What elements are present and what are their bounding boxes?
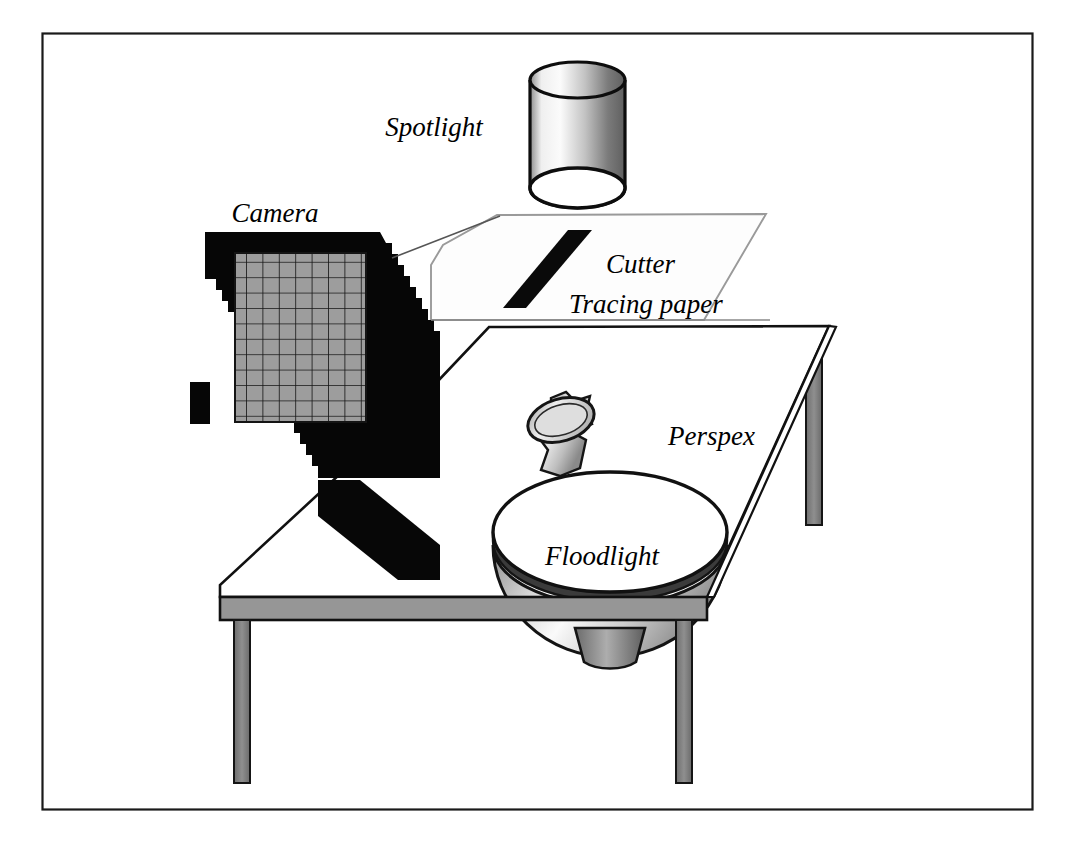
floodlight-bottom-nub [575, 628, 645, 669]
floodlight-top-face [493, 472, 727, 592]
spotlight-group [530, 62, 625, 208]
figure-root: Spotlight Cutter Tracing paper Perspex [0, 0, 1075, 855]
table-edge-band [220, 597, 707, 620]
tracing-paper-label: Tracing paper [569, 289, 723, 319]
cutter-label: Cutter [606, 249, 675, 279]
camera-label: Camera [232, 198, 319, 228]
floodlight-label: Floodlight [544, 541, 660, 571]
apparatus-diagram: Spotlight Cutter Tracing paper Perspex [0, 0, 1075, 855]
perspex-label: Perspex [667, 421, 755, 451]
camera-sensor-grid [235, 253, 366, 422]
table-leg-front-right [676, 620, 692, 783]
spotlight-lens-face [530, 168, 625, 208]
table-leg-front-left [234, 620, 250, 783]
spotlight-label: Spotlight [385, 112, 484, 142]
spotlight-top-cap [530, 62, 625, 98]
camera-side-notch [190, 382, 210, 424]
